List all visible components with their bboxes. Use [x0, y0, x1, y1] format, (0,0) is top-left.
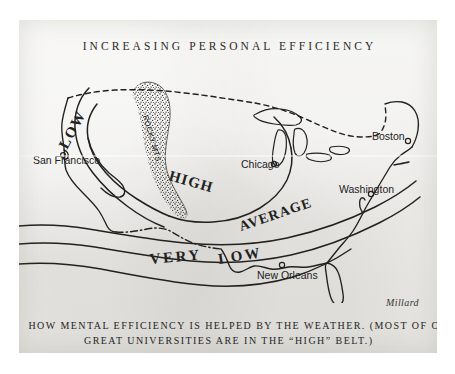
scanned-paper: INCREASING PERSONAL EFFICIENCY: [19, 20, 437, 353]
caption-line-2: GREAT UNIVERSITIES ARE IN THE “HIGH” BEL…: [27, 333, 429, 348]
city-dot-boston: [405, 138, 410, 143]
map-figure: San Francisco Chicago Boston Washington …: [19, 68, 437, 303]
zone-label-low-west: LOW: [56, 108, 89, 152]
caption-line-1: HOW MENTAL EFFICIENCY IS HELPED BY THE W…: [27, 318, 429, 333]
illustration-page: INCREASING PERSONAL EFFICIENCY: [0, 0, 455, 374]
figure-caption: HOW MENTAL EFFICIENCY IS HELPED BY THE W…: [27, 318, 429, 348]
zone-label-very: VERY: [149, 246, 203, 267]
page-title: INCREASING PERSONAL EFFICIENCY: [19, 40, 437, 52]
city-label-washington: Washington: [339, 183, 394, 195]
rocky-mountains-shading: [119, 68, 209, 238]
city-label-san-francisco: San Francisco: [33, 154, 100, 166]
city-dot-new-orleans: [279, 262, 284, 267]
artist-signature: Millard: [386, 297, 419, 308]
city-label-chicago: Chicago: [241, 158, 280, 170]
city-label-new-orleans: New Orleans: [257, 269, 318, 281]
zone-label-low-south: LOW: [217, 244, 263, 267]
city-label-boston: Boston: [372, 130, 405, 142]
us-weather-efficiency-map: San Francisco Chicago Boston Washington …: [19, 68, 437, 303]
